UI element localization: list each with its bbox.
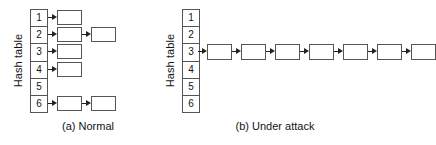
hash-slot: 4 — [183, 62, 199, 79]
chain-arrow-icon — [266, 48, 275, 55]
panel-caption-a: (a) Normal — [33, 120, 143, 132]
bucket-chain — [48, 9, 82, 26]
hash-slot: 4 — [31, 62, 47, 79]
chain-node — [241, 44, 266, 60]
hash-table-b: 1 2 3 4 5 6 — [182, 9, 200, 113]
bucket-chain — [48, 95, 116, 112]
chain-node — [57, 27, 82, 42]
chain-arrow-icon — [48, 100, 57, 107]
axis-label-hash-table-b: Hash table — [162, 9, 178, 112]
chain-arrow-icon — [402, 48, 411, 55]
chain-arrow-icon — [48, 48, 57, 55]
chain-arrow-icon — [334, 48, 343, 55]
chain-arrow-icon — [198, 48, 207, 55]
chain-arrow-icon — [48, 66, 57, 73]
panel-caption-b: (b) Under attack — [200, 120, 350, 132]
chain-arrow-icon — [48, 31, 57, 38]
bucket-chain — [48, 61, 82, 78]
panel-under-attack: Hash table 1 2 3 4 5 6 (b) Under attack — [152, 0, 403, 145]
bucket-chain — [198, 43, 436, 60]
hash-slot: 3 — [183, 44, 199, 61]
bucket-chain — [48, 26, 116, 43]
chain-node — [411, 44, 436, 60]
hash-slot: 6 — [183, 96, 199, 112]
chain-arrow-icon — [232, 48, 241, 55]
chain-node — [57, 96, 82, 111]
chain-node — [57, 44, 82, 59]
hash-slot: 1 — [31, 10, 47, 27]
chain-node — [207, 44, 232, 60]
axis-label-hash-table-a: Hash table — [10, 9, 26, 112]
chain-arrow-icon — [82, 31, 91, 38]
chain-node — [275, 44, 300, 60]
chain-arrow-icon — [368, 48, 377, 55]
chain-node — [57, 62, 82, 77]
chain-node — [57, 10, 82, 25]
chain-node — [343, 44, 368, 60]
chain-arrow-icon — [82, 100, 91, 107]
hash-slot: 2 — [183, 27, 199, 44]
chain-node — [377, 44, 402, 60]
panel-normal: Hash table 1 2 3 4 5 6 (a) Normal — [0, 0, 170, 145]
hash-slot: 3 — [31, 44, 47, 61]
chain-arrow-icon — [300, 48, 309, 55]
chain-node — [309, 44, 334, 60]
hash-slot: 5 — [183, 79, 199, 96]
bucket-chain — [48, 43, 82, 60]
hash-slot: 2 — [31, 27, 47, 44]
hash-slot: 6 — [31, 96, 47, 112]
chain-node — [91, 27, 116, 42]
chain-arrow-icon — [48, 14, 57, 21]
hash-table-a: 1 2 3 4 5 6 — [30, 9, 48, 113]
hash-slot: 5 — [31, 79, 47, 96]
hash-slot: 1 — [183, 10, 199, 27]
chain-node — [91, 96, 116, 111]
